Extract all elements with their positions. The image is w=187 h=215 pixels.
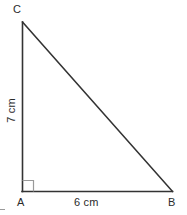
vertex-label-a: A (17, 197, 25, 208)
vertex-label-c: C (13, 4, 21, 15)
triangle-drawing (0, 0, 187, 215)
vertex-label-b: B (168, 197, 176, 208)
right-angle-marker-icon (23, 181, 34, 192)
side-length-label-horizontal: 6 cm (74, 197, 99, 208)
geometry-figure-canvas: C A B 7 cm 6 cm (0, 0, 187, 215)
edge-artifact-mark (0, 209, 5, 210)
triangle-side-hypotenuse (23, 22, 173, 192)
side-length-label-vertical: 7 cm (6, 94, 17, 128)
